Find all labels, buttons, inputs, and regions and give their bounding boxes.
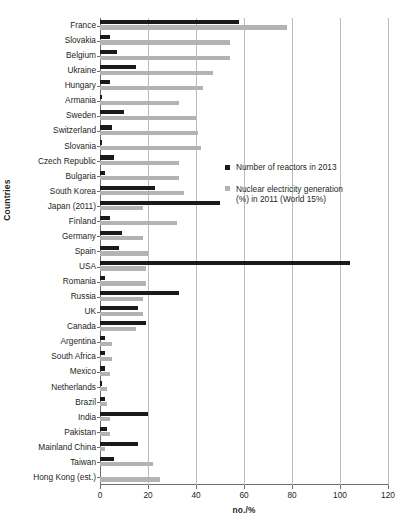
legend-label-generation-line2: (%) in 2011 (World 15%) xyxy=(236,194,343,205)
chart-row xyxy=(100,455,388,470)
bar-reactors xyxy=(100,80,110,84)
bar-reactors xyxy=(100,442,138,446)
bar-reactors xyxy=(100,336,105,340)
x-axis-tick xyxy=(148,485,149,489)
category-label: South Korea xyxy=(4,184,96,199)
chart-row xyxy=(100,274,388,289)
bar-reactors xyxy=(100,125,112,129)
category-label: Sweden xyxy=(4,108,96,123)
x-axis-tick-label: 120 xyxy=(381,490,395,500)
bar-reactors xyxy=(100,95,102,99)
category-label: South Africa xyxy=(4,349,96,364)
category-label: Switzerland xyxy=(4,123,96,138)
legend-entry-generation: Nuclear electricity generation (%) in 20… xyxy=(225,184,343,205)
category-label: Ukraine xyxy=(4,63,96,78)
x-axis-title: no./% xyxy=(100,505,388,515)
x-axis-tick-label: 40 xyxy=(191,490,200,500)
chart-row xyxy=(100,123,388,138)
category-label: Romania xyxy=(4,274,96,289)
bar-generation xyxy=(100,221,177,225)
bar-reactors xyxy=(100,457,114,461)
bar-generation xyxy=(100,357,112,361)
bar-reactors xyxy=(100,321,146,325)
x-axis-tick-label: 80 xyxy=(287,490,296,500)
bar-generation xyxy=(100,462,153,466)
bar-generation xyxy=(100,297,143,301)
chart-row xyxy=(100,259,388,274)
category-label: Netherlands xyxy=(4,380,96,395)
bar-generation xyxy=(100,447,105,451)
bar-reactors xyxy=(100,216,110,220)
bar-reactors xyxy=(100,412,148,416)
category-label: Canada xyxy=(4,319,96,334)
bar-generation xyxy=(100,251,148,255)
bar-reactors xyxy=(100,427,107,431)
chart-row xyxy=(100,395,388,410)
bar-reactors xyxy=(100,397,105,401)
chart-row xyxy=(100,425,388,440)
chart-row xyxy=(100,334,388,349)
legend-label-reactors: Number of reactors in 2013 xyxy=(236,162,337,172)
category-label: Spain xyxy=(4,244,96,259)
bar-generation xyxy=(100,417,110,421)
bar-generation xyxy=(100,266,146,270)
bar-generation xyxy=(100,342,112,346)
x-axis-tick xyxy=(244,485,245,489)
x-axis-tick xyxy=(292,485,293,489)
bar-generation xyxy=(100,146,201,150)
bar-reactors xyxy=(100,186,155,190)
x-axis-tick-label: 0 xyxy=(98,490,103,500)
bar-generation xyxy=(100,432,110,436)
category-label: UK xyxy=(4,304,96,319)
x-axis-tick xyxy=(340,485,341,489)
bar-generation xyxy=(100,387,107,391)
chart-row xyxy=(100,304,388,319)
bar-generation xyxy=(100,131,198,135)
chart-legend: Number of reactors in 2013 Nuclear elect… xyxy=(225,162,343,216)
bar-reactors xyxy=(100,351,105,355)
category-label: Hong Kong (est.) xyxy=(4,470,96,485)
category-label: Pakistan xyxy=(4,425,96,440)
chart-row xyxy=(100,93,388,108)
chart-row xyxy=(100,108,388,123)
chart-row xyxy=(100,229,388,244)
category-label: Mexico xyxy=(4,364,96,379)
bar-generation xyxy=(100,477,160,481)
legend-swatch-dark-icon xyxy=(225,165,230,170)
bar-reactors xyxy=(100,291,179,295)
bar-generation xyxy=(100,327,136,331)
legend-entry-reactors: Number of reactors in 2013 xyxy=(225,162,343,173)
x-axis-tick-label: 20 xyxy=(143,490,152,500)
category-label: Bulgaria xyxy=(4,169,96,184)
bar-generation xyxy=(100,101,179,105)
grid-line xyxy=(388,18,389,485)
bar-reactors xyxy=(100,366,105,370)
chart-row xyxy=(100,319,388,334)
category-label: Japan (2011) xyxy=(4,199,96,214)
category-label: Czech Republic xyxy=(4,154,96,169)
category-label: Belgium xyxy=(4,48,96,63)
chart-row xyxy=(100,48,388,63)
bar-generation xyxy=(100,372,110,376)
bar-generation xyxy=(100,86,203,90)
chart-row xyxy=(100,244,388,259)
category-label: Slovakia xyxy=(4,33,96,48)
bar-reactors xyxy=(100,20,239,24)
bar-generation xyxy=(100,236,143,240)
nuclear-reactors-bar-chart: Countries no./% Number of reactors in 20… xyxy=(0,0,412,532)
chart-row xyxy=(100,78,388,93)
bar-reactors xyxy=(100,261,350,265)
bar-reactors xyxy=(100,306,138,310)
bar-generation xyxy=(100,312,143,316)
legend-swatch-light-icon xyxy=(225,186,230,191)
legend-label-generation: Nuclear electricity generation xyxy=(236,184,343,194)
bar-reactors xyxy=(100,171,105,175)
bar-reactors xyxy=(100,381,102,385)
bar-generation xyxy=(100,40,230,44)
chart-row xyxy=(100,63,388,78)
x-axis-tick xyxy=(196,485,197,489)
bar-reactors xyxy=(100,50,117,54)
category-label: Russia xyxy=(4,289,96,304)
x-axis-tick-label: 100 xyxy=(333,490,347,500)
x-axis-tick xyxy=(100,485,101,489)
